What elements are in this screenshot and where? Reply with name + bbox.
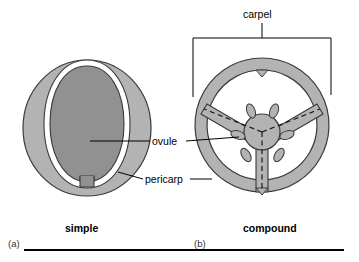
compound-ovule-6 — [272, 147, 287, 164]
simple-funiculus — [80, 176, 94, 187]
compound-caption: compound — [243, 223, 297, 234]
simple-ovule — [50, 66, 124, 181]
panel-label-a: (a) — [8, 239, 20, 249]
figure-container: carpel ovule pericarp simple compound (a… — [0, 0, 359, 262]
simple-caption: simple — [65, 223, 98, 234]
pericarp-label: pericarp — [145, 174, 183, 185]
diagram-canvas — [0, 0, 359, 262]
panel-label-b: (b) — [194, 239, 206, 249]
compound-ovule-5 — [239, 147, 254, 164]
compound-top-suture-notch — [256, 70, 268, 77]
ovule-label: ovule — [152, 136, 177, 147]
ovule-leader-right — [186, 137, 239, 141]
compound-carpel-group — [195, 58, 329, 195]
carpel-label: carpel — [243, 9, 272, 20]
